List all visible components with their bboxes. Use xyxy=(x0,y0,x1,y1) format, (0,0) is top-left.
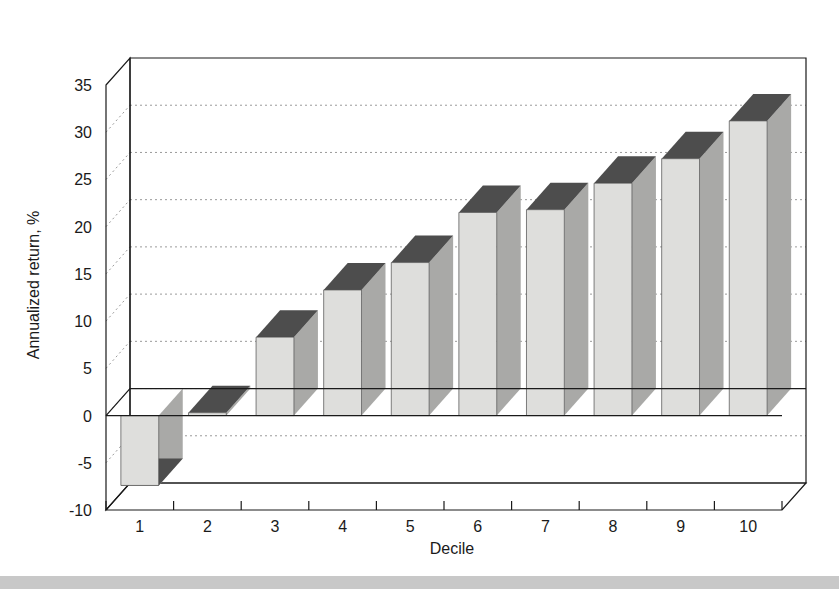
bar-side-face-7 xyxy=(564,183,588,416)
footer-band xyxy=(0,576,839,589)
y-tick-label-7: 0 xyxy=(83,408,92,425)
bar-decile-8 xyxy=(594,156,656,415)
bar-front-face-10 xyxy=(729,121,767,416)
gridline-depth-20 xyxy=(106,200,130,227)
gridline-depth-5 xyxy=(106,341,130,368)
gridline-depth-15 xyxy=(106,247,130,274)
bar-decile-9 xyxy=(662,132,724,416)
bar-decile-3 xyxy=(256,310,318,415)
y-tick-label-1: 30 xyxy=(74,124,92,141)
bar-front-face-6 xyxy=(459,213,497,416)
bar-decile-4 xyxy=(324,263,386,416)
y-tick-labels-group: 35302520151050-5-10 xyxy=(69,77,92,519)
bar-side-face-9 xyxy=(700,132,724,416)
x-tick-label-9: 9 xyxy=(676,518,685,535)
y-tick-label-8: -5 xyxy=(78,455,92,472)
floor-plane xyxy=(106,483,806,510)
gridline-depth-25 xyxy=(106,152,130,179)
bar-decile-7 xyxy=(526,183,588,416)
bar-decile-6 xyxy=(459,186,521,416)
bar-front-face-5 xyxy=(391,263,429,416)
x-axis-title: Decile xyxy=(430,540,475,557)
bar-side-face-8 xyxy=(632,156,656,415)
y-axis-title: Annualized return, % xyxy=(25,211,42,360)
bar-front-face-4 xyxy=(324,290,362,416)
gridline-depth-10 xyxy=(106,294,130,321)
x-tick-label-2: 2 xyxy=(203,518,212,535)
x-tick-label-8: 8 xyxy=(609,518,618,535)
gridline-depth-30 xyxy=(106,105,130,132)
bar-decile-10 xyxy=(729,94,791,416)
x-tick-label-5: 5 xyxy=(406,518,415,535)
y-tick-label-2: 25 xyxy=(74,171,92,188)
figure-root: 35302520151050-5-10 12345678910 Annualiz… xyxy=(0,0,839,589)
y-tick-label-4: 15 xyxy=(74,266,92,283)
x-tick-label-3: 3 xyxy=(271,518,280,535)
x-tick-label-6: 6 xyxy=(473,518,482,535)
bar-front-face-3 xyxy=(256,337,294,415)
x-tick-label-10: 10 xyxy=(739,518,757,535)
bar-front-face-7 xyxy=(526,210,564,416)
bar-decile-2 xyxy=(188,386,250,416)
x-tick-label-1: 1 xyxy=(135,518,144,535)
bar-top-face-2 xyxy=(188,386,250,413)
y-tick-label-6: 5 xyxy=(83,360,92,377)
x-tick-label-4: 4 xyxy=(338,518,347,535)
y-tick-label-5: 10 xyxy=(74,313,92,330)
y-tick-label-9: -10 xyxy=(69,502,92,519)
x-tick-labels-group: 12345678910 xyxy=(135,518,757,535)
bar-chart-3d: 35302520151050-5-10 12345678910 Annualiz… xyxy=(0,0,839,589)
bar-front-face-8 xyxy=(594,183,632,415)
bar-front-face-9 xyxy=(662,159,700,416)
bar-side-face-10 xyxy=(767,94,791,416)
y-tick-label-3: 20 xyxy=(74,219,92,236)
y-tick-label-0: 35 xyxy=(74,77,92,94)
x-tick-label-7: 7 xyxy=(541,518,550,535)
bar-side-face-6 xyxy=(497,186,521,416)
bar-front-face-1 xyxy=(121,416,159,486)
